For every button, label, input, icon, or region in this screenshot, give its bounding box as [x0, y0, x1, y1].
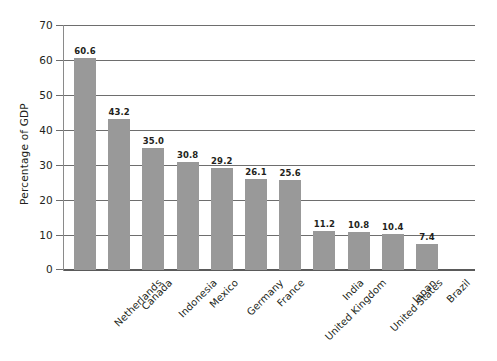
- y-tick-label-30: 30: [39, 160, 53, 171]
- y-tick-label-10: 10: [39, 230, 53, 241]
- gridline-60: [63, 60, 475, 61]
- bar-value-label: 43.2: [96, 108, 142, 117]
- bar[interactable]: [177, 162, 199, 270]
- bar[interactable]: [382, 234, 404, 270]
- bar[interactable]: [313, 231, 335, 270]
- y-tick-mark-20: [56, 200, 63, 201]
- bar[interactable]: [245, 179, 267, 270]
- gridline-70: [63, 25, 475, 26]
- bar[interactable]: [142, 148, 164, 271]
- bar-value-label: 10.4: [370, 223, 416, 232]
- y-tick-label-70: 70: [39, 20, 53, 31]
- y-tick-mark-0: [56, 269, 63, 270]
- y-tick-mark-50: [56, 95, 63, 96]
- y-tick-label-40: 40: [39, 125, 53, 136]
- y-tick-mark-70: [56, 25, 63, 26]
- bar[interactable]: [416, 244, 438, 270]
- bar-value-label: 35.0: [130, 137, 176, 146]
- y-axis-title: Percentage of GDP: [18, 64, 30, 244]
- bar-value-label: 60.6: [62, 47, 108, 56]
- y-tick-label-60: 60: [39, 55, 53, 66]
- y-tick-mark-40: [56, 130, 63, 131]
- bar[interactable]: [108, 119, 130, 270]
- x-tick-label: Brazil: [444, 277, 472, 305]
- bar[interactable]: [348, 232, 370, 270]
- bar-value-label: 25.6: [267, 169, 313, 178]
- bar-chart: 70 60 50 40 30 20 10 0 Percentage of GDP…: [0, 0, 497, 361]
- bar[interactable]: [211, 168, 233, 270]
- y-tick-label-50: 50: [39, 90, 53, 101]
- y-tick-label-20: 20: [39, 195, 53, 206]
- bar[interactable]: [279, 180, 301, 270]
- gridline-50: [63, 95, 475, 96]
- y-tick-mark-30: [56, 165, 63, 166]
- bar-value-label: 29.2: [199, 157, 245, 166]
- bar-value-label: 7.4: [404, 233, 450, 242]
- plot-area: 70 60 50 40 30 20 10 0 Percentage of GDP…: [0, 0, 497, 361]
- y-tick-mark-60: [56, 60, 63, 61]
- y-axis-spine: [63, 25, 64, 271]
- bar[interactable]: [74, 58, 96, 270]
- y-tick-label-0: 0: [46, 264, 53, 275]
- y-tick-mark-10: [56, 235, 63, 236]
